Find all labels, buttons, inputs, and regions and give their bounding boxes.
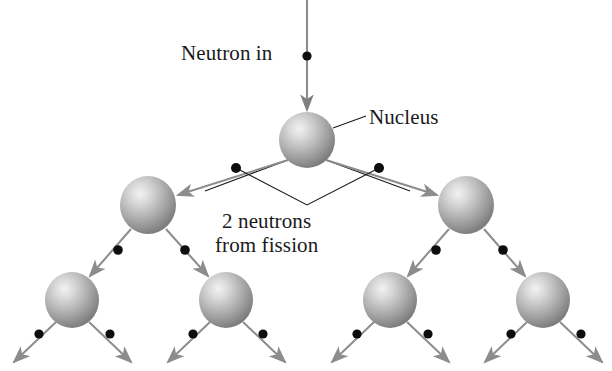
neutron-dot-gen3-n3-right: [423, 329, 432, 338]
label-fission-line2: from fission: [215, 234, 318, 258]
label-nucleus: Nucleus: [369, 106, 439, 130]
label-fission-line1: 2 neutrons: [222, 209, 311, 233]
nucleus-gen3-n2: [199, 272, 253, 328]
neutron-dot-gen2-n1-left: [113, 245, 123, 255]
neutron-dots-group: [34, 51, 585, 338]
neutron-arrow-gen3-n1-right: [89, 322, 131, 362]
neutron-arrow-gen3-n1-left: [14, 322, 56, 362]
neutron-dot-incident: [302, 51, 311, 60]
neutron-dot-gen3-n1-left: [34, 329, 43, 338]
nucleus-gen3-n1: [45, 272, 99, 328]
neutron-dot-gen3-n2-left: [188, 329, 197, 338]
neutron-arrow-gen3-n4-left: [485, 322, 527, 362]
neutron-arrow-gen3-n2-right: [243, 322, 285, 362]
leader-line-nucleus: [333, 116, 366, 128]
neutron-dot-gen2-n2-left: [431, 245, 441, 255]
nucleus-gen2-n1: [120, 176, 176, 234]
neutron-dot-gen3-n3-left: [352, 329, 361, 338]
nucleus-gen3-n4: [516, 272, 570, 328]
nucleus-gen3-n3: [363, 272, 417, 328]
neutron-dot-gen1-right: [374, 163, 384, 173]
neutron-dot-gen3-n1-right: [105, 329, 114, 338]
neutron-arrow-gen3-n3-right: [407, 322, 449, 362]
fission-chain-reaction-diagram: Neutron in Nucleus 2 neutrons from fissi…: [0, 0, 612, 371]
neutron-dot-gen3-n2-right: [258, 329, 267, 338]
neutron-arrow-gen3-n4-right: [560, 322, 602, 362]
neutron-arrow-gen2-n1-left: [90, 229, 131, 276]
neutron-arrow-gen3-n2-left: [168, 322, 210, 362]
neutron-dot-gen2-n1-right: [180, 245, 190, 255]
label-2-neutrons-from-fission: 2 neutrons from fission: [215, 210, 318, 257]
nucleus-gen2-n2: [438, 176, 494, 234]
neutron-arrow-gen3-n3-left: [332, 322, 374, 362]
fission-diagram-canvas: [0, 0, 612, 371]
label-neutron-in: Neutron in: [181, 42, 272, 66]
nucleus-gen1-n1: [279, 112, 335, 168]
neutron-dot-gen2-n2-right: [498, 245, 508, 255]
neutron-dot-gen1-left: [231, 163, 241, 173]
neutron-dot-gen3-n4-left: [506, 329, 515, 338]
leader-line-fission: [236, 168, 379, 205]
neutron-dot-gen3-n4-right: [576, 329, 585, 338]
neutron-arrow-gen2-n2-left: [408, 229, 449, 276]
neutron-arrows-gen3: [14, 322, 602, 362]
